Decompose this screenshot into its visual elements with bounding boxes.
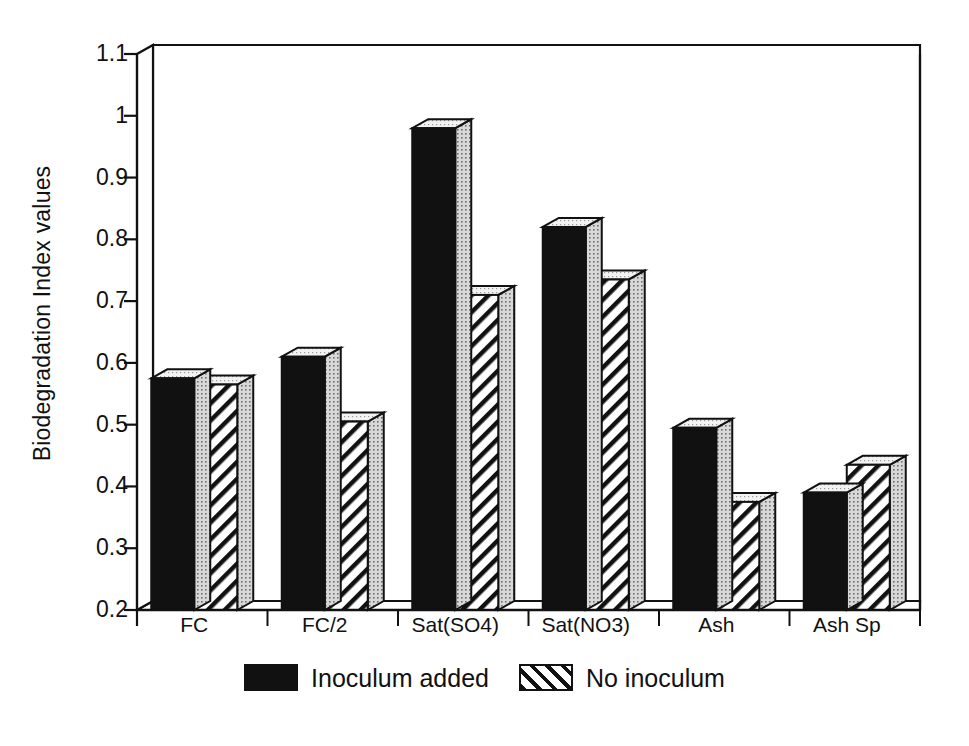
bar-fc-2-inoculum-added <box>282 348 341 610</box>
bar-ash-inoculum-added <box>673 419 732 610</box>
bar-sat-no3--inoculum-added <box>543 218 602 610</box>
plot-frame <box>137 45 920 610</box>
legend-item-no-inoculum: No inoculum <box>519 664 725 691</box>
x-tick-label: Sat(NO3) <box>541 613 630 637</box>
legend-item-inoculum-added: Inoculum added <box>244 664 489 691</box>
y-axis <box>124 54 137 626</box>
bar-chart: Biodegradation Index values 1.110.90.80.… <box>0 0 969 746</box>
x-tick-label: Sat(SO4) <box>411 613 499 637</box>
chart-legend: Inoculum added No inoculum <box>0 664 969 691</box>
x-tick-label: Ash <box>698 613 734 637</box>
legend-solid-swatch-icon <box>244 664 298 691</box>
bar-fc-inoculum-added <box>151 369 210 610</box>
x-tick-label: Ash Sp <box>813 613 881 637</box>
x-tick-label: FC <box>180 613 208 637</box>
legend-label-inoculum-added: Inoculum added <box>311 665 489 691</box>
x-tick-label: FC/2 <box>302 613 348 637</box>
legend-hatch-swatch-icon <box>519 664 573 691</box>
bar-sat-so4--inoculum-added <box>412 119 471 610</box>
legend-label-no-inoculum: No inoculum <box>586 665 725 691</box>
bar-ash-sp-inoculum-added <box>804 484 863 610</box>
